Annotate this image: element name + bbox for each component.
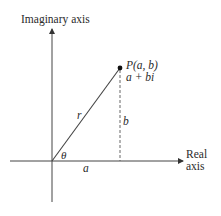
radius-label: r: [77, 110, 81, 122]
point-p: [118, 66, 123, 71]
complex-plane-diagram: [0, 0, 221, 216]
complex-number-label: a + bi: [126, 72, 154, 84]
base-label: a: [83, 163, 89, 175]
point-label: P(a, b): [126, 60, 158, 72]
angle-label: θ: [61, 150, 66, 161]
height-label: b: [123, 116, 129, 128]
real-axis-label-line2: axis: [186, 161, 205, 173]
radius-line: [52, 68, 120, 161]
real-axis-label-line1: Real: [186, 149, 207, 161]
imaginary-axis-label: Imaginary axis: [21, 14, 90, 26]
